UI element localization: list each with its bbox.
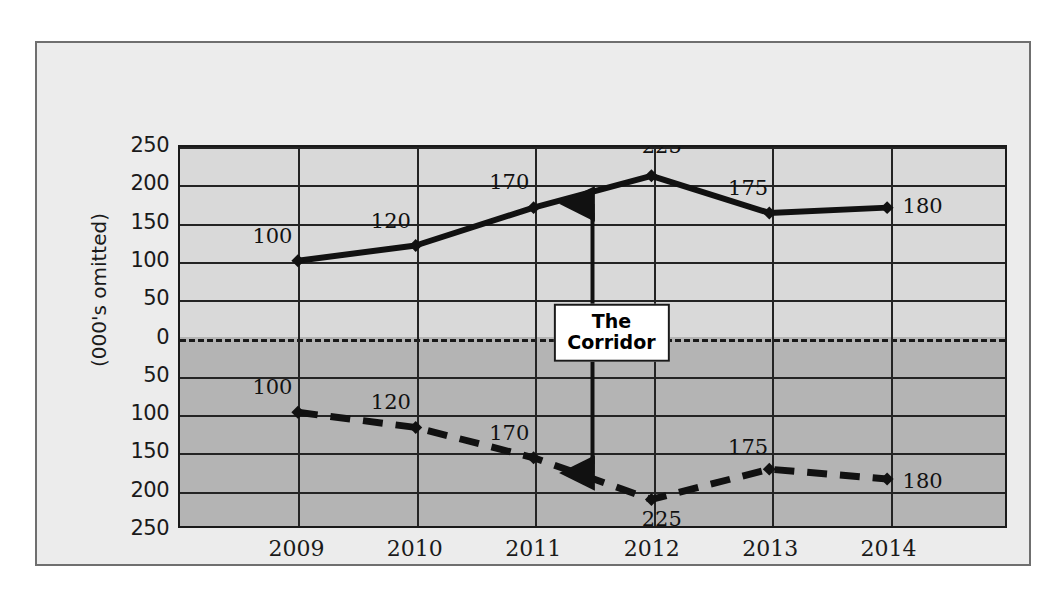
y-axis-tick-labels: 25020015010050050100150200250	[103, 145, 169, 528]
x-axis-tick-labels: 200920102011201220132014	[178, 536, 1007, 570]
y-axis-tick-label: 200	[109, 478, 169, 502]
x-axis-tick-label: 2011	[473, 536, 593, 561]
y-axis-tick-label: 100	[109, 248, 169, 272]
plot-area: 100120170225175180100120170225175180 The…	[178, 145, 1007, 528]
y-axis-tick-label: 150	[109, 439, 169, 463]
corridor-line-2: Corridor	[567, 332, 655, 353]
x-axis-tick-label: 2013	[710, 536, 830, 561]
y-axis-tick-label: 150	[109, 210, 169, 234]
y-axis-tick-label: 50	[109, 286, 169, 310]
corridor-line-1: The	[567, 310, 655, 331]
y-axis-tick-label: 0	[109, 325, 169, 349]
x-axis-tick-label: 2014	[829, 536, 949, 561]
y-axis-tick-label: 250	[109, 133, 169, 157]
corridor-annotation-box: The Corridor	[553, 303, 669, 362]
chart-page: (000's omitted) 250200150100500501001502…	[0, 0, 1061, 603]
x-axis-tick-label: 2012	[592, 536, 712, 561]
y-axis-tick-label: 100	[109, 401, 169, 425]
x-axis-tick-label: 2009	[236, 536, 356, 561]
figure-frame: (000's omitted) 250200150100500501001502…	[35, 41, 1031, 566]
y-axis-tick-label: 250	[109, 516, 169, 540]
y-axis-tick-label: 50	[109, 363, 169, 387]
y-axis-tick-label: 200	[109, 171, 169, 195]
x-axis-tick-label: 2010	[355, 536, 475, 561]
